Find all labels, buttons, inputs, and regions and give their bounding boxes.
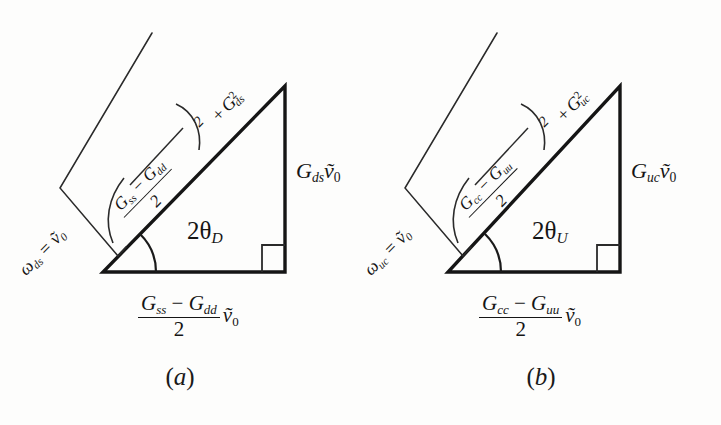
panel-caption-b: (b) bbox=[361, 363, 721, 391]
angle-subscript-a: D bbox=[211, 229, 222, 246]
angle-arc-a bbox=[140, 234, 156, 272]
base-fraction-a: Gss − Gdd 2 bbox=[138, 293, 220, 340]
angle-label-b: 2θU bbox=[532, 218, 568, 246]
paren-right-a bbox=[176, 104, 200, 150]
base-fraction-factor-a: ṽ0 bbox=[220, 305, 239, 328]
paren-right-b bbox=[521, 104, 545, 150]
right-angle-marker-b bbox=[597, 245, 620, 272]
panel-caption-a: (a) bbox=[0, 363, 360, 391]
base-side-label-b: Gcc − Guu 2 ṽ0 bbox=[479, 293, 581, 340]
vertical-side-label-a: Gdsṽ0 bbox=[296, 160, 341, 184]
base-fraction-numerator-b: Gcc − Guu bbox=[479, 293, 562, 318]
base-fraction-numerator-a: Gss − Gdd bbox=[138, 293, 220, 318]
base-side-label-a: Gss − Gdd 2 ṽ0 bbox=[138, 293, 239, 340]
panel-a: ωds = ṽ0 Gss − Gdd 2 2 +G2ds 2θD Gdsṽ0 bbox=[0, 0, 360, 425]
figure-canvas: ωds = ṽ0 Gss − Gdd 2 2 +G2ds 2θD Gdsṽ0 bbox=[0, 0, 721, 425]
vertical-side-label-b: Gucṽ0 bbox=[631, 160, 676, 184]
base-fraction-factor-b: ṽ0 bbox=[562, 305, 581, 328]
right-angle-marker-a bbox=[262, 245, 285, 272]
angle-subscript-b: U bbox=[556, 229, 567, 246]
base-fraction-b: Gcc − Guu 2 bbox=[479, 293, 562, 340]
angle-two-a: 2 bbox=[187, 217, 200, 244]
panel-a-graphics bbox=[0, 0, 360, 425]
base-fraction-denominator-b: 2 bbox=[479, 318, 562, 340]
panel-b-graphics bbox=[361, 0, 721, 425]
angle-label-a: 2θD bbox=[187, 218, 223, 246]
angle-arc-b bbox=[485, 234, 501, 272]
base-fraction-denominator-a: 2 bbox=[138, 318, 220, 340]
angle-two-b: 2 bbox=[532, 217, 545, 244]
panel-b: ωuc = ṽ0 Gcc − Guu 2 2 +G2uc 2θU Gucṽ0 G… bbox=[361, 0, 721, 425]
